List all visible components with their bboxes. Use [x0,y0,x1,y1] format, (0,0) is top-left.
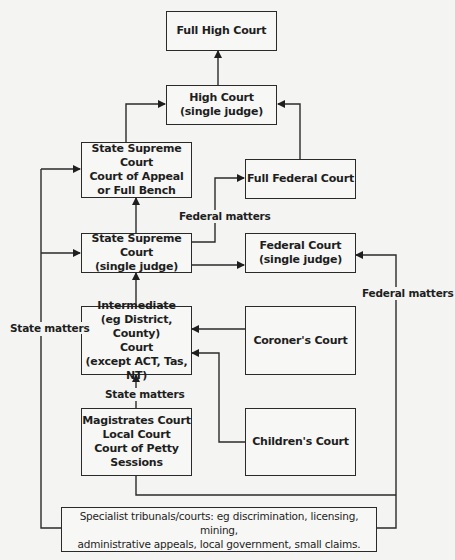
node-full-high-court: Full High Court [166,11,277,51]
node-label: (single judge) [259,253,342,267]
label-federal-matters-mid: Federal matters [178,210,272,222]
node-state-supreme-appeal: State Supreme Court Court of Appeal or F… [81,142,192,198]
node-label: (eg District, County) [82,313,191,341]
node-label: Court of Petty [94,442,179,456]
node-label: High Court [189,91,254,105]
label-state-matters-left: State matters [9,322,90,334]
node-federal-court-single: Federal Court (single judge) [245,233,356,273]
node-label: (single judge) [180,105,263,119]
node-label: Sessions [110,456,163,470]
node-label: Coroner's Court [253,334,347,348]
node-coroners-court: Coroner's Court [245,306,356,375]
label-federal-matters-right: Federal matters [361,287,455,299]
node-label: Intermediate [97,299,175,313]
node-label: (except ACT, Tas, NT) [82,355,191,383]
node-childrens-court: Children's Court [245,408,356,476]
node-label: State Supreme Court [82,232,191,260]
node-label: Children's Court [252,435,349,449]
label-state-matters-mid: State matters [104,388,185,400]
node-magistrates-court: Magistrates Court Local Court Court of P… [81,408,192,476]
node-label: Magistrates Court [82,414,191,428]
node-label: State Supreme Court [82,142,191,170]
node-state-supreme-single: State Supreme Court (single judge) [81,233,192,273]
node-label: Local Court [102,428,170,442]
node-label: (single judge) [95,260,178,274]
node-full-federal-court: Full Federal Court [245,159,356,199]
node-label: Federal Court [260,239,342,253]
node-label: or Full Bench [97,184,175,198]
node-label: administrative appeals, local government… [78,537,361,551]
node-label: Full High Court [177,24,267,38]
node-intermediate-court: Intermediate (eg District, County) Court… [81,306,192,375]
node-high-court-single: High Court (single judge) [166,85,277,125]
node-label: Specialist tribunals/courts: eg discrimi… [62,509,376,537]
node-specialist-tribunals: Specialist tribunals/courts: eg discrimi… [61,507,377,552]
node-label: Full Federal Court [247,172,354,186]
node-label: Court of Appeal [89,170,183,184]
node-label: Court [120,341,153,355]
